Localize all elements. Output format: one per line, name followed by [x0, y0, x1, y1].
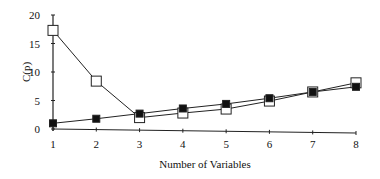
filled-square-marker [93, 115, 100, 122]
filled-square-marker [179, 105, 186, 112]
series-layer [48, 25, 361, 126]
y-tick-label: 15 [29, 38, 41, 50]
y-axis-title: C(p) [20, 62, 33, 83]
x-tick-label: 8 [353, 138, 359, 150]
y-tick-label: 20 [29, 9, 41, 21]
filled-square-marker [309, 88, 316, 95]
x-tick-label: 1 [50, 138, 56, 150]
x-tick-label: 4 [180, 138, 186, 150]
open-square-marker [91, 76, 101, 86]
x-tick-label: 2 [94, 138, 100, 150]
x-axis-line [53, 129, 356, 133]
y-tick-label: 0 [35, 123, 41, 135]
series-line [53, 30, 356, 117]
filled-square-marker [353, 83, 360, 90]
x-tick-label: 5 [223, 138, 229, 150]
x-tick-label: 6 [267, 138, 273, 150]
y-tick-label: 5 [35, 95, 41, 107]
filled-square-marker [50, 120, 57, 127]
cp-chart: 0510152012345678 Number of Variables C(p… [0, 0, 380, 179]
x-tick-label: 3 [137, 138, 143, 150]
open-square-marker [48, 25, 58, 35]
x-tick-label: 7 [310, 138, 316, 150]
filled-square-marker [136, 110, 143, 117]
filled-square-marker [266, 95, 273, 102]
x-axis-title: Number of Variables [159, 158, 250, 170]
filled-square-marker [223, 100, 230, 107]
axes: 0510152012345678 [29, 9, 359, 150]
